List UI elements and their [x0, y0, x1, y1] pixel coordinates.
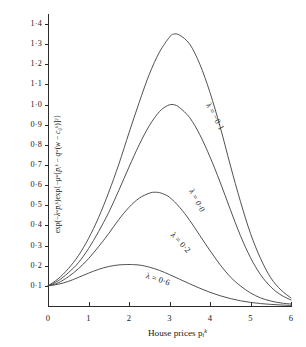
figure-caption — [4, 341, 302, 347]
plot-area — [0, 0, 306, 347]
x-axis-label: House prices pik — [148, 328, 207, 338]
curve-lambda-3 — [48, 265, 291, 306]
x-axis-label-sup: k — [204, 327, 207, 334]
x-axis-label-text: House prices p — [148, 328, 203, 338]
figure-container: exp(−λwp̄ik)exp{−μw[p̄ik − qw(w − cijk)]… — [0, 0, 306, 347]
curve-lambda-0 — [48, 34, 291, 298]
curve-lambda-2 — [48, 192, 291, 304]
curve-lambda-1 — [48, 104, 291, 299]
